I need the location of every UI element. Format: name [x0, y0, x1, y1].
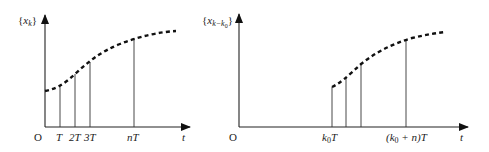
- tick-label-T: T: [56, 131, 63, 143]
- tick-label-nT: nT: [127, 131, 140, 143]
- tick-label-2T: 2T: [69, 131, 82, 143]
- diagram-canvas: {xk} O T 2T 3T nT t {xk−k0} O k0T (k0 + …: [0, 0, 489, 152]
- y-axis-label-left: {xk}: [18, 14, 37, 28]
- origin-label-right: O: [229, 131, 237, 143]
- envelope-curve-right: [332, 32, 446, 87]
- y-axis-label-right: {xk−k0}: [202, 14, 233, 29]
- tick-label-k0-plus-nT: (k0 + n)T: [386, 131, 428, 145]
- x-axis-label-left: t: [182, 131, 186, 143]
- panel-delayed-sequence: {xk−k0} O k0T (k0 + n)T t: [202, 14, 468, 145]
- tick-label-k0T: k0T: [322, 131, 338, 145]
- x-axis-label-right: t: [460, 131, 464, 143]
- envelope-curve-left: [45, 31, 176, 91]
- origin-label-left: O: [34, 131, 42, 143]
- panel-original-sequence: {xk} O T 2T 3T nT t: [18, 14, 190, 143]
- tick-label-3T: 3T: [83, 131, 97, 143]
